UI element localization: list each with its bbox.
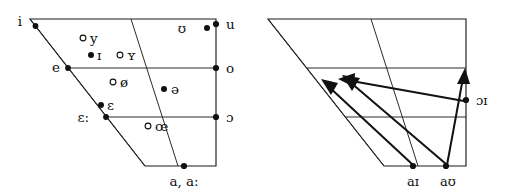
vowel-dot-i: [33, 23, 39, 29]
vowel-charts-canvas: i e ɛ: y ɪ ʏ ø ɛ œ ə ʊ u o ɔ a, a:: [0, 0, 507, 193]
vowel-dot-epsilon: [98, 102, 104, 108]
diphthong-arrow-ai: [321, 79, 412, 164]
right-front-edge: [268, 19, 384, 166]
vowel-label-schwa: ə: [171, 81, 179, 97]
vowel-label-small-cap-i: ɪ: [97, 47, 102, 63]
vowel-dot-o-slash: [110, 79, 116, 85]
diphthong-label-au: aʊ: [440, 174, 456, 189]
vowel-label-epsilon: ɛ: [107, 97, 114, 113]
vowel-dot-small-cap-y: [117, 52, 123, 58]
vowel-label-o: o: [226, 60, 234, 76]
left-front-edge: [30, 19, 145, 166]
right-vowel-quadrilateral: aɪ aʊ ɔɪ: [268, 19, 487, 189]
vowel-dot-a: [181, 163, 187, 169]
vowel-label-upsilon: ʊ: [178, 20, 186, 36]
left-vowel-quadrilateral: i e ɛ: y ɪ ʏ ø ɛ œ ə ʊ u o ɔ a, a:: [18, 13, 235, 189]
diphthong-label-oi: ɔɪ: [476, 93, 487, 108]
vowel-dot-oe: [145, 123, 151, 129]
vowel-label-a: a, a:: [169, 173, 198, 189]
vowel-label-oe: œ: [155, 118, 168, 134]
vowel-label-y: y: [89, 30, 98, 46]
vowel-label-open-o: ɔ: [226, 109, 234, 125]
vowel-dot-eps-long: [103, 114, 109, 120]
vowel-dot-open-o: [213, 114, 219, 120]
vowel-dot-schwa: [161, 86, 167, 92]
diphthong-label-ai: aɪ: [407, 174, 419, 189]
vowel-dot-upsilon: [204, 25, 210, 31]
vowel-dot-o: [213, 65, 219, 71]
vowel-chart-figure: i e ɛ: y ɪ ʏ ø ɛ œ ə ʊ u o ɔ a, a:: [0, 0, 507, 193]
left-quad-outline: [30, 19, 216, 166]
vowel-dot-u: [213, 21, 219, 27]
vowel-label-u: u: [226, 16, 235, 32]
vowel-label-e: e: [52, 59, 60, 75]
vowel-label-o-slash: ø: [120, 74, 128, 90]
vowel-dot-small-cap-i: [88, 52, 94, 58]
vowel-label-eps-long: ɛ:: [77, 109, 89, 125]
vowel-dot-y: [80, 35, 86, 41]
vowel-label-i: i: [18, 13, 23, 29]
vowel-label-small-cap-y: ʏ: [127, 47, 136, 63]
vowel-dot-e: [65, 65, 71, 71]
